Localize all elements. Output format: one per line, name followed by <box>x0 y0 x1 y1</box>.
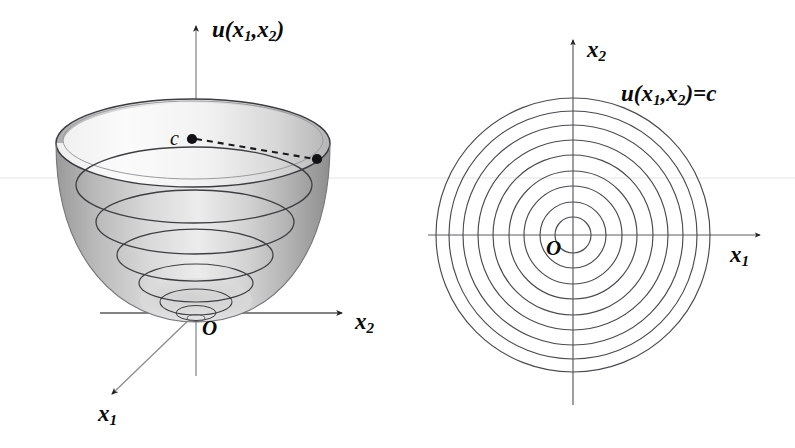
left-x2-axis-label: x2 <box>355 310 374 335</box>
left-x1-axis-label: x1 <box>98 402 117 427</box>
right-x1-axis-label: x1 <box>730 243 749 268</box>
right-origin-label: O <box>546 238 561 259</box>
left-origin-label: O <box>202 318 217 339</box>
left-u-axis-label: u(x1,x2) <box>212 18 284 43</box>
paraboloid-surface <box>56 99 330 322</box>
figure-root: u(x1,x2) c O x2 x1 x2 u(x1,x2)=c O x1 <box>0 0 795 448</box>
level-value-label: c <box>170 128 179 148</box>
left-panel-group <box>56 26 342 394</box>
point-on-rim <box>312 154 322 164</box>
figure-svg <box>0 0 795 448</box>
level-equation-label: u(x1,x2)=c <box>621 82 716 107</box>
left-x1-axis <box>112 313 196 394</box>
right-x2-axis-label: x2 <box>587 38 606 63</box>
point-c-on-axis <box>187 134 197 144</box>
